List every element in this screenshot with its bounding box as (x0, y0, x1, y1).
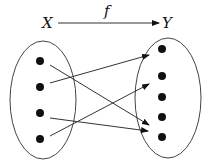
codomain-label: Y (162, 14, 174, 32)
codomain-element-y4 (158, 113, 166, 121)
mapping-arrows (50, 55, 149, 136)
codomain-element-y5 (158, 133, 166, 141)
mapping-arrow-x4 (50, 84, 149, 136)
domain-elements (36, 57, 44, 143)
codomain-element-y3 (158, 93, 166, 101)
function-mapping-diagram: X f Y (0, 0, 206, 164)
function-label: f (103, 2, 112, 20)
codomain-element-y2 (158, 72, 166, 80)
domain-element-x4 (36, 135, 44, 143)
codomain-element-y1 (158, 45, 166, 53)
domain-element-x1 (36, 57, 44, 65)
mapping-arrow-x1 (50, 65, 149, 125)
mapping-arrow-x3 (50, 118, 148, 131)
domain-element-x2 (36, 83, 44, 91)
mapping-arrow-x2 (50, 55, 149, 83)
codomain-elements (158, 45, 166, 141)
domain-element-x3 (36, 109, 44, 117)
domain-label: X (41, 14, 54, 32)
